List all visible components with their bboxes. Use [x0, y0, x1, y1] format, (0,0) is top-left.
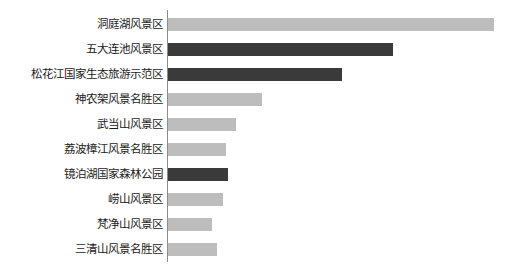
bar-chart: 洞庭湖风景区五大连池风景区松花江国家生态旅游示范区神农架风景名胜区武当山风景区荔… [0, 0, 509, 274]
bar-track [168, 243, 217, 256]
bar-category-label: 武当山风景区 [3, 118, 163, 131]
bar-category-label: 五大连池风景区 [3, 43, 163, 56]
bar-rect[interactable] [168, 168, 228, 181]
bar-row: 三清山风景名胜区 [0, 237, 509, 262]
bar-category-label: 镜泊湖国家森林公园 [3, 168, 163, 181]
bar-row: 荔波樟江风景名胜区 [0, 137, 509, 162]
bar-rect[interactable] [168, 68, 342, 81]
bar-category-label: 荔波樟江风景名胜区 [3, 143, 163, 156]
bar-row: 洞庭湖风景区 [0, 12, 509, 37]
bar-category-label: 松花江国家生态旅游示范区 [3, 68, 163, 81]
bar-category-label: 神农架风景名胜区 [3, 93, 163, 106]
bar-rect[interactable] [168, 193, 223, 206]
bar-row: 镜泊湖国家森林公园 [0, 162, 509, 187]
bar-rect[interactable] [168, 218, 212, 231]
bar-track [168, 68, 342, 81]
bar-row: 梵净山风景区 [0, 212, 509, 237]
bar-track [168, 168, 228, 181]
bar-category-label: 梵净山风景区 [3, 218, 163, 231]
bar-category-label: 洞庭湖风景区 [3, 18, 163, 31]
bar-track [168, 193, 223, 206]
bar-track [168, 218, 212, 231]
bar-rect[interactable] [168, 118, 236, 131]
bar-category-label: 三清山风景名胜区 [3, 243, 163, 256]
bar-row: 松花江国家生态旅游示范区 [0, 62, 509, 87]
bar-category-label: 崂山风景区 [3, 193, 163, 206]
bar-track [168, 93, 262, 106]
plot-area: 洞庭湖风景区五大连池风景区松花江国家生态旅游示范区神农架风景名胜区武当山风景区荔… [0, 0, 509, 274]
bar-track [168, 18, 494, 31]
bar-row: 崂山风景区 [0, 187, 509, 212]
bar-rect[interactable] [168, 243, 217, 256]
bar-row: 五大连池风景区 [0, 37, 509, 62]
bar-track [168, 118, 236, 131]
bar-rect[interactable] [168, 93, 262, 106]
bar-rect[interactable] [168, 43, 393, 56]
bar-row: 神农架风景名胜区 [0, 87, 509, 112]
bar-track [168, 43, 393, 56]
bar-rect[interactable] [168, 18, 494, 31]
bar-row: 武当山风景区 [0, 112, 509, 137]
bar-rect[interactable] [168, 143, 226, 156]
bar-track [168, 143, 226, 156]
